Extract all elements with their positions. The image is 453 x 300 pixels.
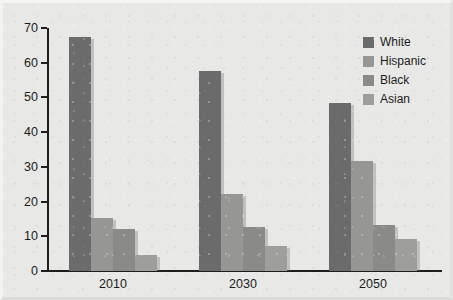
bar-black-2030	[243, 227, 265, 271]
legend-label: Black	[380, 74, 409, 86]
legend-item-asian: Asian	[363, 90, 449, 108]
bar-asian-2050	[395, 239, 417, 271]
y-tick-mark	[41, 27, 47, 29]
y-tick-label: 20	[4, 196, 38, 209]
bar-white-2010	[69, 37, 91, 271]
bar-black-2050	[373, 225, 395, 271]
legend-swatch-icon	[363, 75, 374, 86]
legend-swatch-icon	[363, 56, 374, 67]
y-tick-label: 10	[4, 230, 38, 243]
y-tick-mark	[41, 166, 47, 168]
y-tick-mark	[41, 96, 47, 98]
y-tick-mark	[41, 270, 47, 272]
bar-white-2030	[199, 71, 221, 271]
bar-asian-2010	[135, 255, 157, 271]
y-tick-label: 40	[4, 126, 38, 139]
legend-swatch-icon	[363, 94, 374, 105]
y-axis-line	[47, 28, 49, 272]
legend-item-black: Black	[363, 71, 449, 89]
y-tick-mark	[41, 62, 47, 64]
y-tick-mark	[41, 131, 47, 133]
legend-label: Asian	[380, 93, 410, 105]
y-tick-label: 60	[4, 57, 38, 70]
y-tick-label: 0	[4, 265, 38, 278]
x-axis-label-2010: 2010	[73, 277, 153, 291]
legend-label: White	[380, 36, 411, 48]
legend-item-hispanic: Hispanic	[363, 52, 449, 70]
bar-asian-2030	[265, 246, 287, 271]
y-tick-label: 70	[4, 22, 38, 35]
bar-hispanic-2050	[351, 161, 373, 271]
y-tick-mark	[41, 235, 47, 237]
x-axis-label-2030: 2030	[203, 277, 283, 291]
legend-swatch-icon	[363, 37, 374, 48]
legend-item-white: White	[363, 33, 449, 51]
bar-hispanic-2030	[221, 194, 243, 271]
y-tick-label: 30	[4, 161, 38, 174]
bar-white-2050	[329, 103, 351, 271]
y-tick-label: 50	[4, 91, 38, 104]
y-tick-mark	[41, 201, 47, 203]
x-axis-label-2050: 2050	[333, 277, 413, 291]
chart-legend: WhiteHispanicBlackAsian	[363, 33, 449, 109]
bar-black-2010	[113, 229, 135, 271]
chart-figure: 010203040506070 201020302050 WhiteHispan…	[0, 0, 453, 300]
bar-hispanic-2010	[91, 218, 113, 271]
legend-label: Hispanic	[380, 55, 426, 67]
